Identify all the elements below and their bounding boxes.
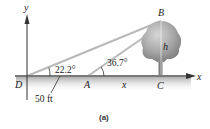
angle-label-A: 36.7° <box>107 58 128 68</box>
point-label-C: C <box>157 80 164 91</box>
sight-line-DB <box>27 21 161 76</box>
point-label-B: B <box>158 7 164 18</box>
angle-arc-A <box>101 67 104 76</box>
sight-line-AB <box>88 33 150 76</box>
height-label: h <box>163 41 168 52</box>
point-label-D: D <box>14 79 23 90</box>
angle-arc-D <box>49 68 50 77</box>
distance-label-x: x <box>121 79 127 90</box>
diagram-canvas: y x D A C B h x 22.2° 36.7° 50 ft (a) <box>0 0 210 129</box>
ground-shading <box>16 76 191 92</box>
y-axis-arrow-icon <box>25 14 30 24</box>
figure-caption: (a) <box>99 113 109 122</box>
point-label-A: A <box>83 79 91 90</box>
angle-label-D: 22.2° <box>55 65 76 75</box>
y-axis-label: y <box>23 2 29 13</box>
distance-label-50ft: 50 ft <box>35 94 53 104</box>
x-axis-label: x <box>196 71 202 82</box>
